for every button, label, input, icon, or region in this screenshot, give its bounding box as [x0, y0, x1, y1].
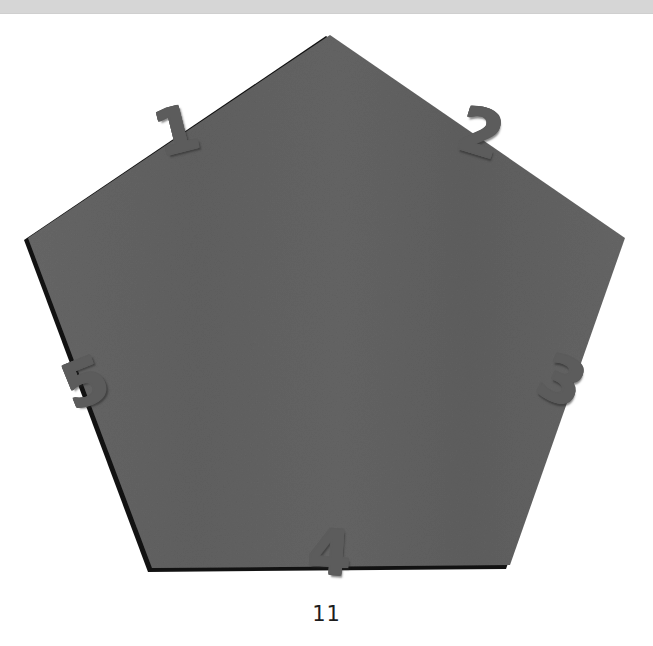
window-title-bar — [0, 0, 653, 14]
figure-canvas: 1 2 3 4 5 11 — [0, 14, 653, 646]
edge-label-4: 4 — [306, 521, 353, 586]
figure-caption: 11 — [0, 602, 653, 626]
